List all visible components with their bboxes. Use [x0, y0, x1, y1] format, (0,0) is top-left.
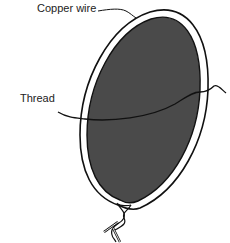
thread-label: Thread: [20, 92, 55, 104]
copper-wire-leader: [98, 9, 136, 18]
membrane: [87, 17, 200, 203]
loop-illustration: [0, 0, 230, 243]
diagram-figure: Copper wire Thread: [0, 0, 230, 243]
copper-wire-label: Copper wire: [37, 2, 96, 14]
copper-wire-loop: [80, 10, 208, 209]
